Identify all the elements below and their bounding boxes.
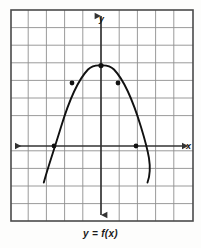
graph-figure: y x y = f(x) (0, 0, 201, 248)
y-axis-label: y (98, 14, 105, 24)
point-right (116, 81, 121, 86)
point-left-x-intercept (52, 144, 57, 149)
coordinate-plane-graph: y x (0, 0, 201, 248)
x-axis-label: x (185, 141, 192, 151)
figure-caption: y = f(x) (0, 228, 201, 239)
point-vertex (98, 63, 103, 68)
point-right-x-intercept (134, 144, 139, 149)
point-left (70, 81, 75, 86)
